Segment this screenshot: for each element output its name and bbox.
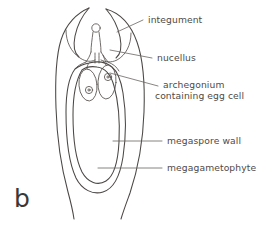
megagametophyte-path bbox=[73, 67, 119, 184]
micropyle-opening-circle bbox=[92, 24, 100, 32]
label-archegonium-line1: archegonium bbox=[163, 79, 224, 90]
leader-nucellus bbox=[110, 50, 152, 58]
egg-cell-left-nucleus bbox=[88, 89, 90, 91]
label-megagametophyte: megagametophyte bbox=[167, 162, 256, 173]
nucellus-neck-left-path bbox=[91, 32, 93, 52]
ovule-diagram: integument nucellus archegonium containi… bbox=[0, 0, 257, 225]
micropyle-arc-left-path bbox=[66, 30, 95, 61]
label-integument: integument bbox=[148, 14, 203, 25]
nucellus-apex-left-path bbox=[86, 52, 91, 62]
leader-archegonium bbox=[110, 73, 158, 86]
archegonium-left-ellipse bbox=[78, 68, 99, 101]
egg-cell-right-nucleus bbox=[107, 76, 109, 78]
leader-integument bbox=[117, 20, 143, 32]
archegonium-right-ellipse bbox=[97, 64, 117, 99]
label-archegonium-line2: containing egg cell bbox=[155, 90, 244, 101]
label-nucellus: nucellus bbox=[157, 52, 196, 63]
integument-outer-left-path bbox=[56, 8, 89, 219]
panel-letter: b bbox=[14, 184, 30, 213]
egg-cell-left-circle bbox=[85, 86, 92, 93]
nucellus-neck-right-path bbox=[99, 32, 101, 52]
label-megaspore-wall: megaspore wall bbox=[167, 135, 241, 146]
